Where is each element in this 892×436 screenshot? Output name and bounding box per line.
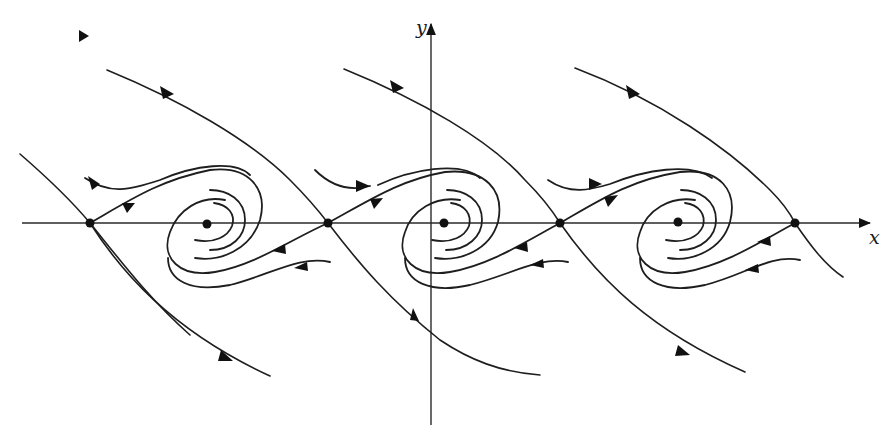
saddle-point (791, 219, 800, 228)
y-axis-label: y (416, 16, 427, 38)
phase-portrait (0, 0, 892, 436)
arrow-icon (530, 259, 544, 268)
saddle-point (556, 219, 565, 228)
arrow-icon (122, 203, 135, 213)
arrow-icon (370, 198, 383, 209)
direction-arrows (79, 30, 771, 361)
arrow-icon (604, 195, 618, 207)
arrow-icon (757, 236, 771, 246)
saddle-point (324, 219, 333, 228)
spiral-3 (548, 169, 800, 288)
separatrix-curve (107, 70, 328, 223)
spiral-center-point (203, 220, 212, 229)
saddle-point (86, 219, 95, 228)
arrow-icon (79, 30, 89, 42)
arrow-icon (160, 86, 174, 99)
spiral-center-point (440, 219, 449, 228)
arrow-icon (745, 264, 759, 273)
arrow-icon (272, 244, 286, 254)
separatrix-curve (795, 223, 843, 277)
arrow-icon (410, 308, 419, 321)
separatrix-curve (560, 223, 745, 372)
arrow-icon (356, 180, 370, 192)
x-axis-label: x (869, 226, 880, 248)
separatrix-curve (328, 223, 540, 375)
arrow-icon (88, 176, 100, 190)
spiral-center-point (674, 218, 683, 227)
arrow-icon (675, 345, 690, 356)
